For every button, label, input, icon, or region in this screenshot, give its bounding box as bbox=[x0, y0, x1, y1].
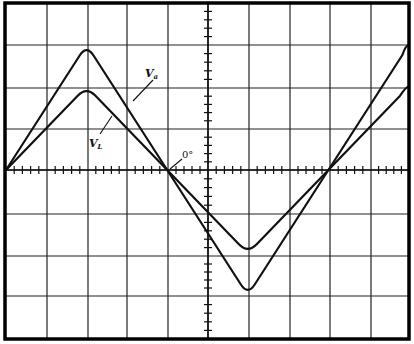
va-label-subscript: a bbox=[154, 72, 159, 81]
vl-label-subscript: L bbox=[97, 142, 103, 151]
screen-background bbox=[0, 0, 414, 344]
phase-zero-label: 0° bbox=[182, 149, 193, 160]
oscilloscope-screen: Va VL 0° bbox=[0, 0, 414, 344]
